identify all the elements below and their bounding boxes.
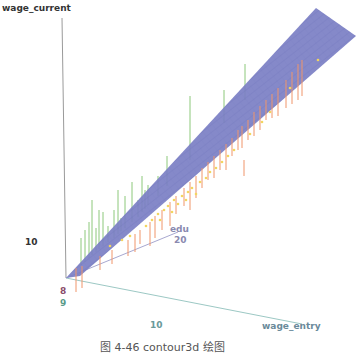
x-axis-label: wage_entry bbox=[262, 321, 321, 331]
regression-plane-grid bbox=[66, 8, 356, 278]
origin-tick-b: 9 bbox=[60, 298, 66, 308]
origin-tick-a: 8 bbox=[60, 286, 66, 296]
y-axis-label: edu bbox=[170, 224, 189, 234]
z-axis-line bbox=[62, 18, 66, 278]
y-axis-tick: 20 bbox=[174, 235, 187, 245]
z-axis-tick: 10 bbox=[25, 237, 38, 247]
x-axis-line bbox=[66, 278, 302, 324]
figure-caption: 图 4-46 contour3d 绘图 bbox=[100, 338, 225, 354]
x-axis-tick: 10 bbox=[150, 320, 163, 330]
z-axis-label: wage_current bbox=[2, 3, 71, 13]
